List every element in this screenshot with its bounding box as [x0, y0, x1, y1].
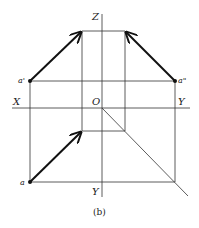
point-a-double-prime-label: a" — [178, 76, 186, 85]
z-axis-label: Z — [91, 11, 100, 22]
point-a-double-prime — [173, 79, 177, 83]
projection-diagram: Z X Y O Y a' a" a (b) — [0, 0, 199, 228]
y-axis-label-right: Y — [178, 96, 186, 107]
point-a-prime — [28, 79, 32, 83]
point-a-label: a — [20, 178, 25, 187]
top-view-vector — [30, 132, 81, 182]
point-a-prime-label: a' — [18, 76, 25, 85]
x-axis-label: X — [12, 96, 21, 107]
axes — [12, 14, 190, 197]
points — [28, 79, 177, 184]
point-a — [28, 180, 32, 184]
origin-label: O — [92, 96, 100, 107]
y-axis-label-bottom: Y — [92, 186, 100, 197]
front-view-vector — [30, 32, 81, 81]
figure-caption: (b) — [93, 207, 106, 217]
side-view-vector — [126, 32, 175, 81]
vectors — [30, 32, 175, 182]
